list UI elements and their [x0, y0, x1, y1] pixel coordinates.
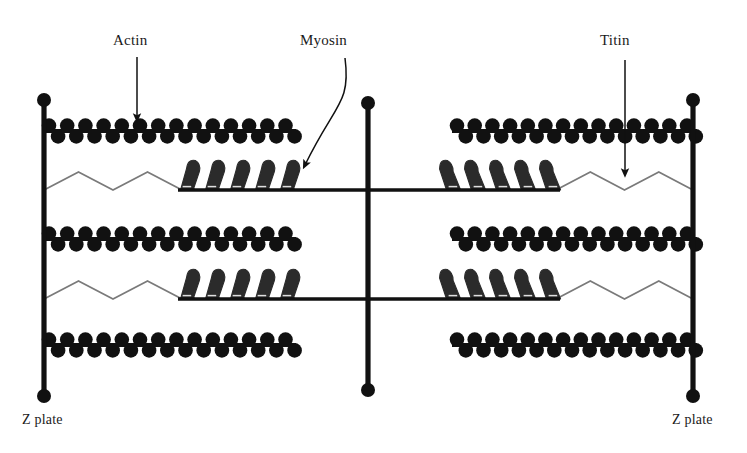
actin-filament-top-right: [450, 118, 703, 143]
actin-filament-bottom-right: [450, 332, 703, 357]
z-plate-right-cap-bottom: [686, 389, 700, 403]
z-plate-right-label: Z plate: [672, 412, 713, 427]
actin-annotation-label: Actin: [113, 32, 148, 48]
actin-filament-mid-right: [450, 226, 703, 251]
z-plate-left-cap-bottom: [37, 389, 51, 403]
z-plate-right-cap-top: [686, 93, 700, 107]
m-line-cap-top: [361, 96, 375, 110]
z-plate-left-cap-top: [37, 93, 51, 107]
actin-filament-top-left: [42, 118, 302, 143]
diagram-canvas: ActinMyosinTitinZ plateZ plate: [0, 0, 747, 453]
z-plate-left-label: Z plate: [22, 412, 63, 427]
m-line-cap-bottom: [361, 383, 375, 397]
actin-filament-mid-left: [42, 226, 302, 251]
myosin-annotation-label: Myosin: [300, 32, 347, 48]
sarcomere-diagram: ActinMyosinTitinZ plateZ plate: [0, 0, 747, 453]
actin-filament-bottom-left: [42, 332, 302, 357]
titin-annotation-label: Titin: [600, 32, 630, 48]
